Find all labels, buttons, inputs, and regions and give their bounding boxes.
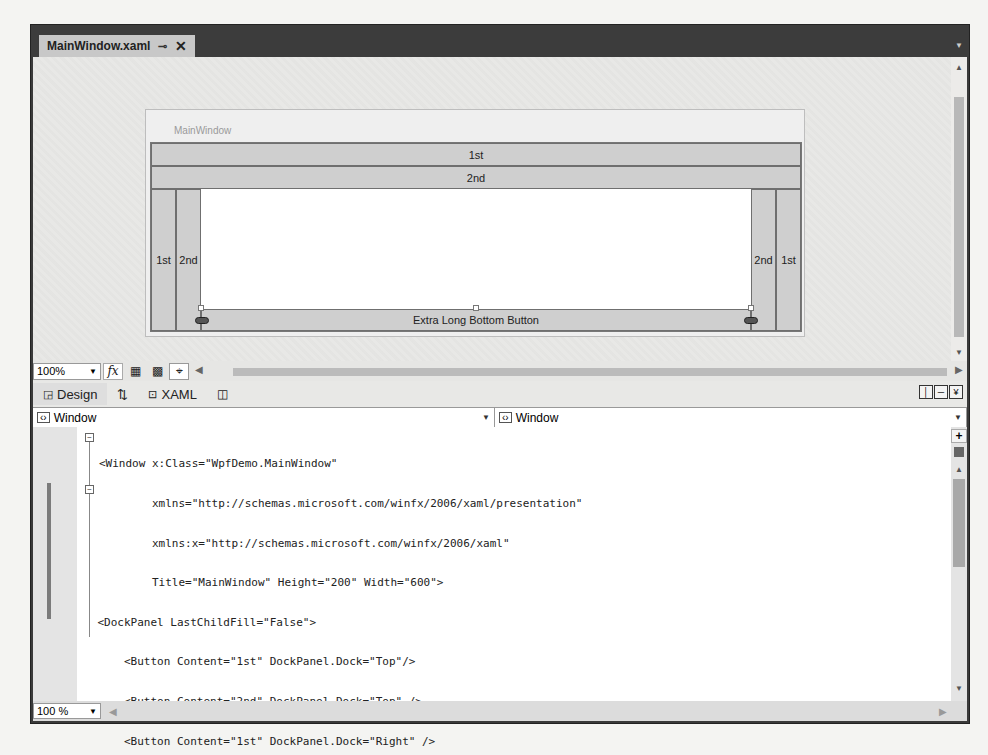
snap-to-snaplines-icon[interactable]: ⌖ <box>169 363 189 380</box>
horizontal-split-icon[interactable]: ─ <box>934 385 948 399</box>
fx-effects-icon[interactable]: fx <box>103 363 123 380</box>
scroll-right-arrow-icon[interactable]: ▶ <box>939 706 947 717</box>
scroll-thumb[interactable] <box>953 479 965 567</box>
button-left-1st[interactable]: 1st <box>151 189 176 331</box>
split-editor-icon[interactable]: + <box>951 429 967 443</box>
scroll-left-arrow-icon[interactable]: ◀ <box>109 706 117 717</box>
chevron-down-icon: ▼ <box>89 707 97 716</box>
chevron-down-icon: ▼ <box>954 413 962 422</box>
popout-icon: ◫ <box>217 387 228 401</box>
swap-panes-button[interactable]: ⇅ <box>107 383 138 405</box>
chevron-down-icon: ▼ <box>89 367 97 376</box>
document-tab-bar: MainWindow.xaml ⊸ ✕ ▼ <box>31 25 969 57</box>
button-bottom-extra-long[interactable]: Extra Long Bottom Button <box>201 309 751 331</box>
code-line: <Button Content="1st" DockPanel.Dock="Ri… <box>71 735 582 748</box>
split-view-bar: ◲ Design ⇅ ⊡ XAML ◫ │ ─ ¥ <box>33 381 967 407</box>
design-view-icon: ◲ <box>43 388 53 401</box>
split-orientation-controls: │ ─ ¥ <box>919 385 963 399</box>
button-top-1st[interactable]: 1st <box>151 143 801 166</box>
scroll-up-arrow-icon[interactable]: ▲ <box>955 465 963 474</box>
editor-vertical-scrollbar[interactable]: + ▲ ▼ <box>951 427 967 701</box>
design-surface[interactable]: MainWindow 1st 2nd 1st 2nd 2nd 1st Extra… <box>33 57 967 379</box>
tab-design-label: Design <box>57 387 97 402</box>
wpf-window-preview[interactable]: MainWindow 1st 2nd 1st 2nd 2nd 1st Extra… <box>145 109 805 337</box>
designer-vertical-scrollbar[interactable]: ▲ ▼ <box>951 57 967 361</box>
tab-mainwindow-xaml[interactable]: MainWindow.xaml ⊸ ✕ <box>39 35 195 57</box>
editor-zoom-dropdown[interactable]: 100 % ▼ <box>33 703 101 719</box>
scroll-down-arrow-icon[interactable]: ▼ <box>955 684 963 693</box>
editor-zoom-value: 100 % <box>37 705 68 717</box>
scroll-left-arrow-icon[interactable]: ◀ <box>195 364 203 375</box>
element-type-dropdown[interactable]: ‹› Window ▼ <box>33 408 495 427</box>
zoom-value: 100% <box>37 365 65 377</box>
scroll-thumb[interactable] <box>233 368 947 376</box>
margin-grip-right-icon[interactable] <box>744 317 758 324</box>
tab-design[interactable]: ◲ Design <box>33 383 107 405</box>
scroll-thumb[interactable] <box>954 97 964 337</box>
code-line: <DockPanel LastChildFill="False"> <box>71 616 582 629</box>
tab-xaml[interactable]: ⊡ XAML <box>138 383 206 405</box>
designer-toolbar: 100% ▼ fx ▦ ▩ ⌖ ◀ ▶ <box>33 361 967 381</box>
element-type-value: Window <box>54 411 97 425</box>
popout-xaml-button[interactable]: ◫ <box>207 383 238 405</box>
resize-handle[interactable] <box>473 305 479 311</box>
vertical-split-icon[interactable]: │ <box>919 385 933 399</box>
margin-grip-left-icon[interactable] <box>195 317 209 324</box>
scroll-down-arrow-icon[interactable]: ▼ <box>955 348 963 357</box>
code-line: <Window x:Class="WpfDemo.MainWindow" <box>99 457 582 470</box>
chevron-down-icon: ▼ <box>482 413 490 422</box>
collapse-dockpanel-icon[interactable]: − <box>85 485 94 494</box>
code-line: Title="MainWindow" Height="200" Width="6… <box>99 576 582 589</box>
code-line: <Button Content="1st" DockPanel.Dock="To… <box>71 655 582 668</box>
change-tracking-bar <box>47 483 51 619</box>
pin-icon[interactable]: ⊸ <box>158 40 167 53</box>
wpf-window-title: MainWindow <box>174 125 231 136</box>
tab-xaml-label: XAML <box>161 387 196 402</box>
editor-frame: MainWindow.xaml ⊸ ✕ ▼ MainWindow 1st 2nd… <box>30 24 970 724</box>
resize-handle[interactable] <box>198 305 204 311</box>
window-element-icon: ‹› <box>499 412 512 423</box>
code-line: xmlns:x="http://schemas.microsoft.com/wi… <box>99 537 582 550</box>
collapse-window-icon[interactable]: − <box>85 433 94 442</box>
editor-status-bar: 100 % ▼ ◀ ▶ <box>33 701 967 721</box>
tab-title: MainWindow.xaml <box>47 39 150 53</box>
button-right-2nd[interactable]: 2nd <box>751 189 776 331</box>
dockpanel[interactable]: 1st 2nd 1st 2nd 2nd 1st Extra Long Botto… <box>150 142 802 332</box>
designer-horizontal-scrollbar[interactable]: ◀ ▶ <box>193 363 967 380</box>
element-member-dropdown[interactable]: ‹› Window ▼ <box>495 408 967 427</box>
tab-overflow-dropdown-icon[interactable]: ▼ <box>955 41 963 50</box>
outline-guide <box>89 441 90 637</box>
zoom-dropdown[interactable]: 100% ▼ <box>33 363 101 380</box>
code-line: xmlns="http://schemas.microsoft.com/winf… <box>99 497 582 510</box>
element-member-value: Window <box>516 411 559 425</box>
button-right-1st[interactable]: 1st <box>776 189 801 331</box>
window-element-icon: ‹› <box>37 412 50 423</box>
xaml-navigation-bar: ‹› Window ▼ ‹› Window ▼ <box>33 407 967 427</box>
button-top-2nd[interactable]: 2nd <box>151 166 801 189</box>
validation-mark-icon <box>954 447 964 457</box>
resize-handle[interactable] <box>748 305 754 311</box>
close-icon[interactable]: ✕ <box>175 38 187 54</box>
collapse-pane-icon[interactable]: ¥ <box>949 385 963 399</box>
grid-toggle-icon[interactable]: ▦ <box>125 363 145 380</box>
xaml-code-editor[interactable]: − − <Window x:Class="WpfDemo.MainWindow"… <box>33 427 967 701</box>
scroll-up-arrow-icon[interactable]: ▲ <box>955 63 963 72</box>
scroll-right-arrow-icon[interactable]: ▶ <box>955 364 963 375</box>
xaml-view-icon: ⊡ <box>148 388 157 401</box>
snap-to-grid-icon[interactable]: ▩ <box>147 363 167 380</box>
swap-panes-icon: ⇅ <box>117 387 128 402</box>
